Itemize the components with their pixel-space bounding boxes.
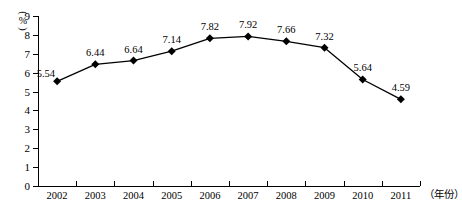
data-point-marker: [91, 60, 99, 68]
data-point-value-label: 7.14: [155, 34, 189, 45]
data-point-marker: [397, 95, 405, 103]
data-point-value-label: 7.92: [231, 19, 265, 30]
data-point-value-label: 6.64: [117, 44, 151, 55]
data-point-value-label: 7.32: [308, 31, 342, 42]
data-point-marker: [168, 47, 176, 55]
line-chart: ( % ) 0123456789 20022003200420052006200…: [0, 0, 462, 223]
series-plot: [0, 0, 462, 223]
data-point-marker: [206, 34, 214, 42]
data-point-value-label: 5.54: [21, 68, 55, 79]
data-point-value-label: 5.64: [346, 62, 380, 73]
data-point-value-label: 7.82: [193, 21, 227, 32]
data-point-marker: [282, 37, 290, 45]
data-point-value-label: 4.59: [384, 82, 418, 93]
data-point-value-label: 6.44: [78, 47, 112, 58]
data-point-marker: [244, 32, 252, 40]
data-point-marker: [130, 57, 138, 65]
data-point-value-label: 7.66: [269, 24, 303, 35]
